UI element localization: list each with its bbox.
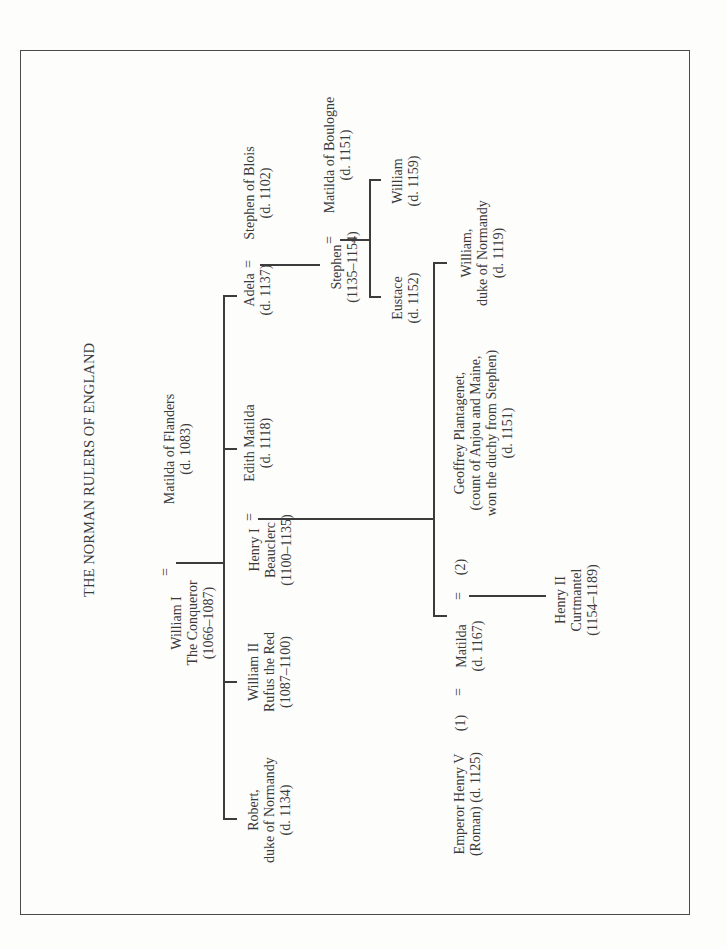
person-henry-ii: Henry II Curtmantel (1154–1189) (553, 564, 601, 635)
person-eustace: Eustace (d. 1152) (390, 273, 422, 324)
descent-line (258, 518, 434, 520)
siblings-line (223, 295, 225, 819)
person-matilda-of-flanders: Matilda of Flanders (d. 1083) (162, 394, 194, 504)
child-tick-matilda (433, 615, 447, 617)
person-william-duke-of-normandy: William, duke of Normandy (d. 1119) (459, 200, 507, 306)
person-robert: Robert, duke of Normandy (d. 1134) (246, 757, 294, 863)
marriage-mark: = (241, 260, 257, 268)
person-stephen-of-blois: Stephen of Blois (d. 1102) (242, 146, 274, 239)
person-william: William (d. 1159) (390, 156, 422, 207)
child-tick-adela (223, 295, 237, 297)
descent-line (469, 595, 546, 597)
marriage-mark: = (158, 568, 174, 576)
marriage-mark: = (451, 688, 467, 696)
child-tick-eustace (369, 296, 381, 298)
descent-line (340, 239, 371, 241)
marriage-order-1: (1) (453, 715, 469, 731)
descent-line (176, 562, 224, 564)
siblings-line (433, 262, 435, 616)
diagram-frame (20, 50, 690, 915)
person-william-i: William I The Conqueror (1066–1087) (169, 580, 217, 665)
person-emperor-henry-v: Emperor Henry V (Roman) (d. 1125) (452, 752, 484, 856)
descent-line (260, 264, 320, 266)
child-tick-william (369, 179, 381, 181)
person-william-ii: William II Rufus the Red (1087–1100) (246, 632, 294, 712)
siblings-line (369, 179, 371, 297)
page-title: THE NORMAN RULERS OF ENGLAND (81, 343, 97, 597)
child-tick-edith (223, 448, 237, 450)
marriage-mark: = (451, 592, 467, 600)
child-tick-william-ii (223, 681, 237, 683)
person-adela: Adela (d. 1137) (242, 265, 274, 316)
person-matilda-of-boulogne: Matilda of Boulogne (d. 1151) (322, 97, 354, 214)
marriage-order-2: (2) (453, 559, 469, 575)
person-edith-matilda: Edith Matilda (d. 1118) (242, 404, 274, 481)
marriage-mark: = (322, 236, 338, 244)
person-matilda-empress: Matilda (d. 1167) (454, 621, 486, 672)
person-geoffrey-plantagenet: Geoffrey Plantagenet, (count of Anjou an… (452, 350, 516, 516)
child-tick-robert (223, 818, 237, 820)
marriage-mark: = (242, 513, 258, 521)
child-tick-william-normandy (433, 262, 447, 264)
person-henry-i: Henry I Beauclerc (1100–1135) (247, 514, 295, 585)
